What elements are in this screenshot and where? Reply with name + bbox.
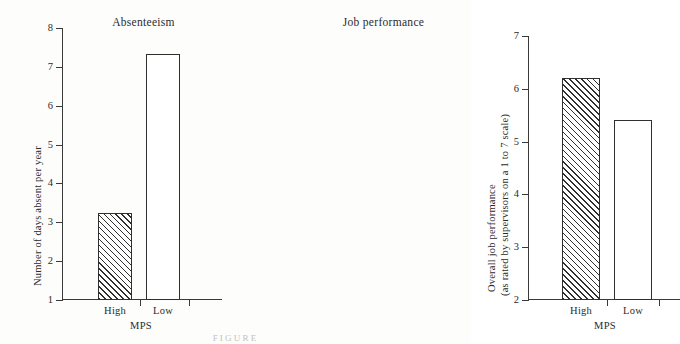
y-tick-mark [522, 300, 529, 301]
x-tick-mark [659, 300, 660, 306]
x-category-label-high: High [90, 305, 140, 316]
y-tick-mark [56, 28, 63, 29]
plot-area-job-performance: 7 6 5 4 3 2 [528, 36, 668, 300]
x-category-label-low: Low [608, 305, 658, 316]
y-tick-mark [56, 261, 63, 262]
y-tick-mark [56, 106, 63, 107]
y-axis-label-absenteeism: Number of days absent per year [32, 146, 43, 286]
x-category-label-high: High [556, 305, 606, 316]
y-tick-label: 8 [48, 21, 53, 34]
x-axis-line [62, 299, 222, 300]
y-tick-label: 1 [48, 293, 53, 306]
y-tick-label: 7 [48, 60, 53, 73]
bar-high-job-performance [562, 78, 600, 300]
y-tick-mark [56, 222, 63, 223]
figure-caption: FIGURE [0, 333, 471, 343]
y-tick-label: 4 [48, 176, 53, 189]
y-tick-label: 7 [514, 29, 519, 42]
y-tick-label: 3 [48, 215, 53, 228]
y-axis-label-line2: (as rated by supervisors on a 1 to 7 sca… [499, 114, 510, 296]
y-tick-label: 4 [514, 187, 519, 200]
y-tick-mark [522, 247, 529, 248]
y-axis-line [528, 36, 529, 300]
y-axis-line [62, 28, 63, 300]
y-tick-label: 3 [514, 240, 519, 253]
bar-low-absenteeism [146, 54, 180, 300]
y-axis-label-line1: Overall job performance [486, 184, 497, 292]
x-axis-title-job-performance: MPS [550, 320, 660, 331]
chart-title-absenteeism: Absenteeism [0, 16, 261, 28]
y-tick-label: 6 [48, 99, 53, 112]
plot-area-absenteeism: 8 7 6 5 4 3 2 [62, 28, 204, 300]
y-tick-mark [56, 67, 63, 68]
chart-job-performance: Job performance Overall job performance … [236, 0, 471, 320]
y-tick-label: 2 [48, 254, 53, 267]
x-tick-mark [189, 300, 190, 306]
y-tick-label: 2 [514, 293, 519, 306]
x-axis-title-absenteeism: MPS [86, 320, 196, 331]
y-tick-label: 6 [514, 82, 519, 95]
y-tick-mark [522, 194, 529, 195]
y-tick-mark [56, 183, 63, 184]
bar-low-job-performance [614, 120, 652, 300]
y-tick-mark [522, 89, 529, 90]
chart-title-job-performance: Job performance [236, 16, 501, 28]
y-tick-mark [522, 142, 529, 143]
y-tick-label: 5 [514, 135, 519, 148]
y-tick-label: 5 [48, 138, 53, 151]
y-tick-mark [522, 36, 529, 37]
y-tick-mark [56, 300, 63, 301]
y-tick-mark [56, 145, 63, 146]
bar-high-absenteeism [98, 213, 132, 300]
x-axis-line [528, 299, 680, 300]
x-category-label-low: Low [138, 305, 188, 316]
chart-absenteeism: Absenteeism Number of days absent per ye… [0, 0, 235, 320]
